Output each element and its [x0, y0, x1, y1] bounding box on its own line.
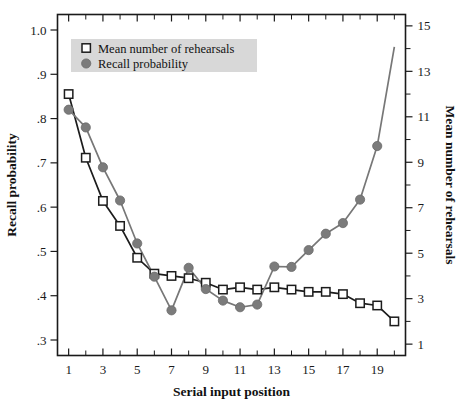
legend-marker-recall	[82, 59, 91, 68]
series-line-recall	[69, 47, 395, 311]
marker-recall	[355, 195, 364, 204]
marker-rehearsals	[64, 90, 72, 98]
x-tick-label: 5	[134, 362, 141, 377]
data-series	[64, 47, 399, 326]
y-axis-title: Recall probability	[4, 133, 19, 237]
marker-recall	[115, 196, 124, 205]
marker-recall	[167, 306, 176, 315]
y2-tick-label: 7	[418, 200, 425, 215]
marker-rehearsals	[304, 288, 312, 296]
y2-tick-label: 13	[418, 64, 431, 79]
marker-rehearsals	[99, 197, 107, 205]
marker-recall	[150, 272, 159, 281]
x-tick-label: 13	[268, 362, 281, 377]
marker-rehearsals	[133, 254, 141, 262]
y2-axis-title: Mean number of rehearsals	[443, 106, 458, 265]
marker-rehearsals	[322, 288, 330, 296]
y-tick-label: .5	[37, 244, 47, 259]
y-tick-label: 1.0	[30, 23, 46, 38]
marker-recall	[304, 246, 313, 255]
x-tick-label: 11	[234, 362, 247, 377]
marker-recall	[338, 218, 347, 227]
marker-recall	[235, 303, 244, 312]
marker-recall	[184, 263, 193, 272]
marker-recall	[201, 284, 210, 293]
marker-rehearsals	[219, 285, 227, 293]
y-tick-label: .8	[37, 111, 47, 126]
y2-tick-label: 5	[418, 246, 425, 261]
marker-rehearsals	[287, 285, 295, 293]
marker-rehearsals	[82, 154, 90, 162]
x-tick-label: 9	[203, 362, 210, 377]
marker-recall	[133, 239, 142, 248]
marker-recall	[81, 123, 90, 132]
x-tick-label: 15	[302, 362, 315, 377]
marker-recall	[64, 105, 73, 114]
marker-recall	[321, 229, 330, 238]
marker-rehearsals	[373, 301, 381, 309]
marker-rehearsals	[253, 285, 261, 293]
legend-label: Recall probability	[98, 57, 189, 71]
x-tick-label: 3	[100, 362, 107, 377]
chart-container: 135791113151719Serial input position.3.4…	[0, 0, 459, 410]
marker-rehearsals	[390, 317, 398, 325]
y2-tick-label: 1	[418, 337, 425, 352]
y-axis-left: .3.4.5.6.7.8.91.0Recall probability	[4, 23, 58, 348]
y-tick-label: .4	[37, 288, 47, 303]
x-tick-label: 1	[65, 362, 72, 377]
marker-recall	[287, 262, 296, 271]
y2-tick-label: 3	[418, 291, 425, 306]
marker-recall	[218, 296, 227, 305]
chart-legend: Mean number of rehearsalsRecall probabil…	[71, 39, 257, 72]
marker-rehearsals	[116, 222, 124, 230]
legend-label: Mean number of rehearsals	[98, 42, 235, 56]
y-tick-label: .3	[37, 333, 47, 348]
marker-rehearsals	[339, 290, 347, 298]
y2-tick-label: 11	[418, 109, 431, 124]
y2-tick-label: 9	[418, 155, 425, 170]
x-tick-label: 7	[168, 362, 175, 377]
y-axis-right: 13579111315Mean number of rehearsals	[406, 18, 459, 351]
marker-rehearsals	[167, 272, 175, 280]
legend-marker-rehearsals	[82, 44, 90, 52]
marker-rehearsals	[236, 283, 244, 291]
y-tick-label: .9	[37, 67, 47, 82]
y-tick-label: .6	[37, 200, 47, 215]
series-line-rehearsals	[69, 94, 395, 321]
x-axis-title: Serial input position	[173, 384, 291, 399]
x-tick-label: 17	[336, 362, 350, 377]
y-tick-label: .7	[37, 155, 47, 170]
x-tick-label: 19	[371, 362, 384, 377]
marker-rehearsals	[356, 299, 364, 307]
marker-recall	[253, 300, 262, 309]
y2-tick-label: 15	[418, 18, 431, 33]
x-axis: 135791113151719Serial input position	[65, 15, 394, 399]
marker-recall	[98, 163, 107, 172]
marker-recall	[373, 141, 382, 150]
marker-recall	[270, 262, 279, 271]
marker-rehearsals	[270, 283, 278, 291]
serial-position-chart: 135791113151719Serial input position.3.4…	[0, 0, 459, 410]
marker-rehearsals	[184, 274, 192, 282]
